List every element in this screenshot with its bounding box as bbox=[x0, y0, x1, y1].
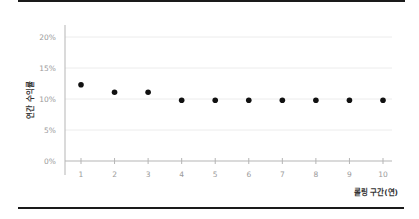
y-tick-label: 15% bbox=[39, 64, 56, 73]
x-tick-label: 10 bbox=[378, 170, 388, 179]
data-point bbox=[313, 97, 319, 103]
y-axis-title: 연간 수익률 bbox=[25, 81, 35, 119]
y-tick-label: 10% bbox=[39, 95, 56, 104]
y-tick-label: 0% bbox=[44, 157, 56, 166]
x-tick-label: 6 bbox=[246, 170, 251, 179]
data-point bbox=[145, 89, 151, 95]
data-point bbox=[380, 97, 386, 103]
data-points bbox=[78, 82, 386, 103]
y-axis-ticks: 0%5%10%15%20% bbox=[39, 33, 56, 166]
x-tick-label: 2 bbox=[112, 170, 117, 179]
x-tick-label: 1 bbox=[79, 170, 84, 179]
x-tick-label: 5 bbox=[213, 170, 218, 179]
x-axis-title: 롤링 구간(연) bbox=[354, 187, 398, 197]
data-point bbox=[112, 89, 118, 95]
data-point bbox=[78, 82, 84, 88]
x-tick-label: 3 bbox=[146, 170, 151, 179]
data-point bbox=[212, 97, 218, 103]
x-tick-label: 8 bbox=[313, 170, 318, 179]
data-point bbox=[179, 97, 185, 103]
data-point bbox=[246, 97, 252, 103]
x-tick-label: 9 bbox=[347, 170, 352, 179]
gridlines bbox=[65, 37, 392, 130]
x-tick-label: 7 bbox=[280, 170, 285, 179]
axes bbox=[65, 25, 392, 175]
x-tick-label: 4 bbox=[179, 170, 184, 179]
data-point bbox=[347, 97, 353, 103]
scatter-chart: 0%5%10%15%20% 12345678910 연간 수익률 롤링 구간(연… bbox=[0, 0, 419, 219]
data-point bbox=[280, 97, 286, 103]
bottom-rule bbox=[18, 207, 404, 209]
y-tick-label: 20% bbox=[39, 33, 56, 42]
y-tick-label: 5% bbox=[44, 126, 56, 135]
